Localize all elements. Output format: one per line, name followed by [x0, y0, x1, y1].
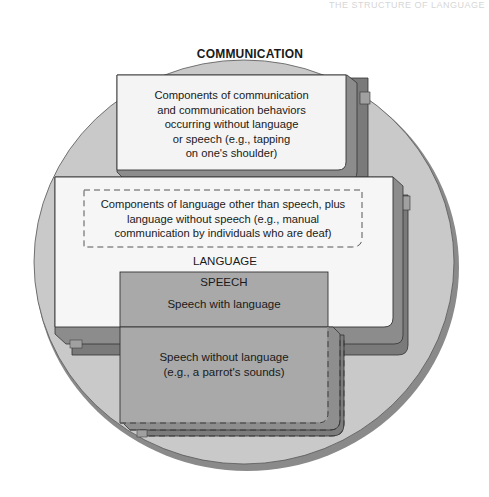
- text-line: occurring without language: [117, 117, 346, 132]
- text-line: (e.g., a parrot's sounds): [120, 365, 328, 380]
- text-line: on one's shoulder): [117, 146, 346, 161]
- text-line: Components of language other than speech…: [84, 197, 362, 212]
- text-line: language without speech (e.g., manual: [84, 212, 362, 227]
- text-line: Speech without language: [120, 350, 328, 365]
- text-line: and communication behaviors: [117, 103, 346, 118]
- speech-with-language-label: Speech with language: [120, 298, 328, 310]
- speech-title: SPEECH: [120, 276, 328, 288]
- text-line: or speech (e.g., tapping: [117, 132, 346, 147]
- communication-title: COMMUNICATION: [160, 47, 340, 61]
- language-without-speech-description: Components of language other than speech…: [84, 197, 362, 241]
- communication-only-description: Components of communication and communic…: [117, 88, 346, 161]
- speech-without-language-description: Speech without language (e.g., a parrot'…: [120, 350, 328, 379]
- text-line: Components of communication: [117, 88, 346, 103]
- text-line: communication by individuals who are dea…: [84, 226, 362, 241]
- language-title: LANGUAGE: [170, 255, 280, 267]
- communication-diagram: [0, 0, 489, 497]
